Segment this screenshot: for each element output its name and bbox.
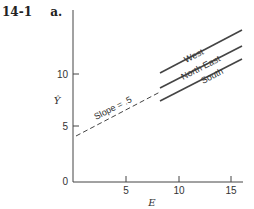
x-tick-5: 5 — [123, 185, 129, 196]
x-tick-10: 10 — [173, 185, 185, 196]
x-axis-label: E — [147, 197, 156, 208]
y-tick-10: 10 — [57, 69, 69, 80]
slope-line — [76, 92, 160, 136]
x-tick-15: 15 — [225, 185, 237, 196]
chart: 10 5 0 5 10 15 E Ŷ Slope = .5 West North… — [0, 0, 254, 209]
y-tick-0: 0 — [62, 176, 68, 187]
y-axis-label: Ŷ — [54, 95, 62, 106]
slope-label: Slope = .5 — [92, 94, 133, 121]
y-tick-5: 5 — [62, 121, 68, 132]
